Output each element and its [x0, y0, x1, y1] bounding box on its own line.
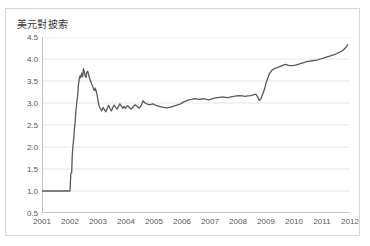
x-tick-label: 2011	[313, 217, 330, 226]
plot-area: 4.54.03.53.02.52.01.51.00.5 200120022003…	[42, 37, 350, 213]
x-tick-label: 2001	[33, 217, 51, 226]
y-tick-label: 3.5	[27, 77, 38, 86]
y-tick-label: 2.0	[27, 143, 38, 152]
x-tick-label: 2005	[145, 217, 163, 226]
x-tick-label: 2006	[173, 217, 191, 226]
chart-title: 美元對披索	[17, 16, 68, 31]
chart-figure: 美元對披索 4.54.03.53.02.52.01.51.00.5 200120…	[5, 8, 360, 236]
x-tick-labels: 2001200220032004200520062007200820092010…	[42, 37, 350, 213]
y-tick-label: 4.0	[27, 55, 38, 64]
x-tick-label: 2002	[61, 217, 79, 226]
y-tick-label: 4.5	[27, 33, 38, 42]
y-tick-label: 2.5	[27, 121, 38, 130]
x-tick-label: 2010	[285, 217, 303, 226]
x-tick-label: 2004	[117, 217, 135, 226]
x-tick-label: 2012	[341, 217, 359, 226]
y-tick-label: 1.5	[27, 165, 38, 174]
x-tick-label: 2007	[201, 217, 219, 226]
x-tick-label: 2003	[89, 217, 107, 226]
y-tick-label: 3.0	[27, 99, 38, 108]
y-tick-label: 1.0	[27, 187, 38, 196]
x-tick-label: 2009	[257, 217, 275, 226]
x-tick-label: 2008	[229, 217, 247, 226]
